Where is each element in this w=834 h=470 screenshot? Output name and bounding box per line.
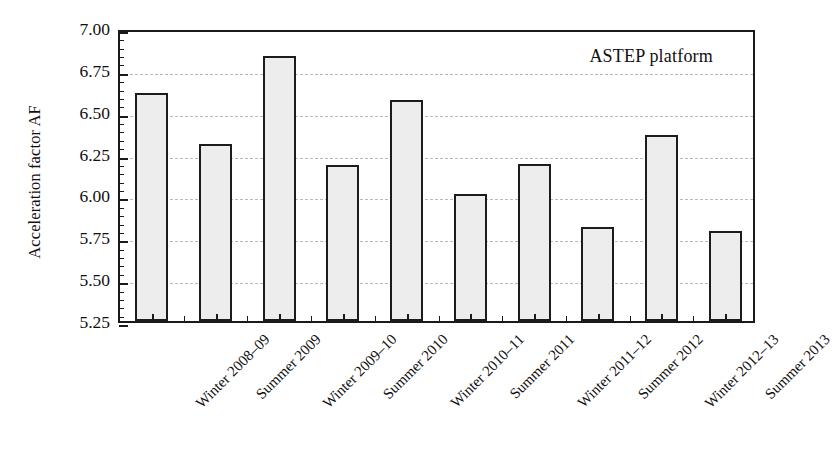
y-axis-tick-minor <box>119 57 124 58</box>
y-axis-tick-minor <box>119 275 124 276</box>
plot-area: ASTEP platform <box>118 30 755 323</box>
y-axis-tick-label: 6.25 <box>48 147 110 165</box>
x-axis-tick-label: Winter 2009–10 <box>320 331 401 412</box>
x-axis-tick-label: Summer 2012 <box>635 331 707 403</box>
gridline <box>120 74 753 75</box>
x-axis-tick-minor <box>375 316 376 322</box>
x-axis-tick-label: Summer 2010 <box>380 331 452 403</box>
y-axis-tick-major <box>119 199 128 201</box>
y-axis-tick-minor <box>119 82 124 83</box>
y-axis-tick-minor <box>119 91 124 92</box>
x-axis-tick <box>534 314 536 322</box>
x-axis-tick-label: Summer 2009 <box>252 331 324 403</box>
y-axis-tick-minor <box>119 233 124 234</box>
x-axis-tick-minor <box>693 316 694 322</box>
x-axis-tick-label: Summer 2011 <box>507 331 578 402</box>
y-axis-tick-major <box>119 283 128 285</box>
y-axis-tick-minor <box>119 292 124 293</box>
y-axis-tick-minor <box>119 40 124 41</box>
y-axis-tick-minor <box>119 266 124 267</box>
y-axis-tick-minor <box>119 65 124 66</box>
x-axis-tick <box>152 314 154 322</box>
x-axis-tick <box>470 314 472 322</box>
y-axis-tick-label: 5.25 <box>48 314 110 332</box>
x-axis-tick-label: Summer 2013 <box>762 331 834 403</box>
x-axis-tick-minor <box>502 316 503 322</box>
y-axis-tick-minor <box>119 99 124 100</box>
x-axis-tick-minor <box>311 316 312 322</box>
y-axis-tick-minor <box>119 124 124 125</box>
x-axis-tick <box>279 314 281 322</box>
bar <box>709 231 742 321</box>
x-axis-tick <box>216 314 218 322</box>
x-axis-tick-minor <box>247 316 248 322</box>
y-axis-tick-major <box>119 74 128 76</box>
y-axis-tick-label: 6.75 <box>48 63 110 81</box>
y-axis-tick-minor <box>119 208 124 209</box>
y-axis-tick-minor <box>119 174 124 175</box>
x-axis-tick-label: Winter 2012–13 <box>702 331 783 412</box>
y-axis-tick-minor <box>119 250 124 251</box>
y-axis-tick-label: 5.50 <box>48 272 110 290</box>
y-axis-tick-minor <box>119 183 124 184</box>
bar <box>326 165 359 321</box>
x-axis-tick-label: Winter 2010–11 <box>447 331 527 411</box>
y-axis-tick-minor <box>119 166 124 167</box>
bar <box>135 93 168 321</box>
bar <box>454 194 487 321</box>
y-axis-tick-minor <box>119 149 124 150</box>
x-axis-tick <box>343 314 345 322</box>
plot-inner <box>120 32 753 321</box>
y-axis-tick-minor <box>119 317 124 318</box>
bar <box>581 227 614 321</box>
bar <box>645 135 678 321</box>
y-axis-tick-major <box>119 32 128 34</box>
y-axis-tick-major <box>119 241 128 243</box>
y-axis-tick-labels: 7.006.756.506.256.005.755.505.25 <box>42 0 110 470</box>
x-axis-tick <box>725 314 727 322</box>
bar <box>199 144 232 321</box>
bar <box>263 56 296 321</box>
y-axis-tick-minor <box>119 225 124 226</box>
y-axis-tick-label: 6.50 <box>48 105 110 123</box>
x-axis-tick-minor <box>439 316 440 322</box>
x-axis-tick-minor <box>630 316 631 322</box>
y-axis-tick-minor <box>119 49 124 50</box>
y-axis-tick-minor <box>119 216 124 217</box>
y-axis-tick-label: 5.75 <box>48 231 110 249</box>
gridline <box>120 116 753 117</box>
y-axis-tick-minor <box>119 191 124 192</box>
x-axis-tick-label: Winter 2011–12 <box>574 331 654 411</box>
y-axis-tick-major <box>119 325 128 327</box>
y-axis-tick-minor <box>119 258 124 259</box>
x-axis-tick <box>407 314 409 322</box>
x-axis-tick <box>661 314 663 322</box>
x-axis-tick <box>598 314 600 322</box>
y-axis-tick-minor <box>119 300 124 301</box>
bar <box>518 164 551 321</box>
y-axis-tick-label: 7.00 <box>48 21 110 39</box>
y-axis-tick-major <box>119 158 128 160</box>
y-axis-tick-minor <box>119 308 124 309</box>
chart-annotation: ASTEP platform <box>589 46 713 67</box>
bar <box>390 100 423 321</box>
y-axis-tick-minor <box>119 132 124 133</box>
x-axis-tick-label: Winter 2008–09 <box>192 331 273 412</box>
y-axis-tick-major <box>119 116 128 118</box>
y-axis-tick-minor <box>119 107 124 108</box>
x-axis-tick-minor <box>184 316 185 322</box>
y-axis-tick-label: 6.00 <box>48 189 110 207</box>
y-axis-tick-minor <box>119 141 124 142</box>
x-axis-tick-minor <box>566 316 567 322</box>
